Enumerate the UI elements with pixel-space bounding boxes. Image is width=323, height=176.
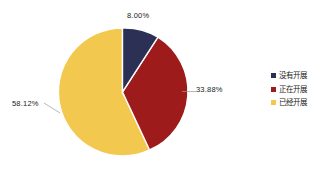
- data-label-yijing-kaizhan: 58.12%: [12, 99, 39, 108]
- legend-item-label: 正在开展: [279, 85, 307, 94]
- chart-legend: 没有开展 正在开展 已经开展: [271, 71, 307, 107]
- data-label-zhengzai-kaizhan: 33.88%: [196, 85, 223, 94]
- legend-item-label: 已经开展: [279, 98, 307, 107]
- legend-item-zhengzai-kaizhan[interactable]: 正在开展: [271, 85, 307, 94]
- legend-item-yijing-kaizhan[interactable]: 已经开展: [271, 98, 307, 107]
- legend-swatch-icon: [271, 87, 276, 92]
- legend-item-meiyou-kaizhan[interactable]: 没有开展: [271, 71, 307, 80]
- data-label-meiyou-kaizhan: 8.00%: [127, 11, 149, 20]
- leader-line-yijing: [44, 103, 60, 113]
- legend-swatch-icon: [271, 73, 276, 78]
- pie-chart-figure: 8.00% 33.88% 58.12% 没有开展 正在开展 已经开展: [0, 0, 323, 176]
- legend-swatch-icon: [271, 100, 276, 105]
- legend-item-label: 没有开展: [279, 71, 307, 80]
